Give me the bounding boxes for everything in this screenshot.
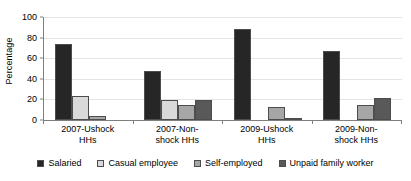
bar-self-employed[interactable] <box>268 107 285 120</box>
bar-slot <box>195 17 212 120</box>
legend-item-label: Unpaid family worker <box>290 159 374 168</box>
legend-item[interactable]: Salaried <box>37 159 81 168</box>
bar-slot <box>72 17 89 120</box>
plot-area <box>43 17 402 121</box>
bar-salaried[interactable] <box>55 44 72 120</box>
y-axis-tick-label: 0 <box>32 116 37 125</box>
legend-item[interactable]: Casual employee <box>97 159 178 168</box>
x-axis-category-label: 2009-Ushock HHs <box>222 124 312 152</box>
y-axis-tick-labels: 100806040200 <box>14 13 40 121</box>
x-axis-category-label: 2009-Non- shock HHs <box>312 124 402 152</box>
legend-swatch-icon <box>194 160 201 167</box>
bar-slot <box>268 17 285 120</box>
legend-swatch-icon <box>97 160 104 167</box>
bar-group <box>134 17 224 120</box>
x-axis-tick-mark <box>401 120 402 124</box>
bar-slot <box>234 17 251 120</box>
bar-salaried[interactable] <box>234 29 251 120</box>
bar-slot <box>55 17 72 120</box>
y-axis-tick-label: 40 <box>27 74 37 83</box>
bar-self-employed[interactable] <box>178 105 195 120</box>
bar-slot <box>323 17 340 120</box>
bar-salaried[interactable] <box>144 71 161 120</box>
legend-swatch-icon <box>279 160 286 167</box>
bar-salaried[interactable] <box>323 51 340 120</box>
x-axis-category-label: 2007-Non- shock HHs <box>133 124 223 152</box>
bar-slot <box>144 17 161 120</box>
bar-slot <box>106 17 123 120</box>
x-axis-category-label: 2007-Ushock HHs <box>43 124 133 152</box>
legend-item[interactable]: Unpaid family worker <box>279 159 374 168</box>
bar-unpaid-family-worker[interactable] <box>195 100 212 120</box>
legend-item-label: Casual employee <box>108 159 178 168</box>
legend-item[interactable]: Self-employed <box>194 159 263 168</box>
bar-slot <box>340 17 357 120</box>
bar-group <box>44 17 134 120</box>
y-axis-title-text: Percentage <box>4 37 14 84</box>
y-axis-tick-label: 80 <box>27 33 37 42</box>
bar-slot <box>251 17 268 120</box>
bar-chart-figure: Percentage 100806040200 2007-Ushock HHs2… <box>0 0 411 181</box>
bar-slot <box>161 17 178 120</box>
y-axis-tick-label: 60 <box>27 54 37 63</box>
chart-legend: SalariedCasual employeeSelf-employedUnpa… <box>0 155 411 171</box>
bar-slot <box>357 17 374 120</box>
bar-casual-employee[interactable] <box>161 100 178 120</box>
bar-slot <box>285 17 302 120</box>
bar-slot <box>89 17 106 120</box>
bar-slot <box>178 17 195 120</box>
legend-swatch-icon <box>37 160 44 167</box>
legend-item-label: Salaried <box>48 159 81 168</box>
bar-casual-employee[interactable] <box>72 96 89 120</box>
bar-group <box>223 17 313 120</box>
bar-groups <box>44 17 402 120</box>
y-axis-tick-label: 100 <box>22 13 37 22</box>
bar-slot <box>374 17 391 120</box>
y-axis-tick-label: 20 <box>27 95 37 104</box>
legend-item-label: Self-employed <box>205 159 263 168</box>
bar-group <box>313 17 403 120</box>
x-axis-category-labels: 2007-Ushock HHs2007-Non- shock HHs2009-U… <box>43 124 401 152</box>
bar-self-employed[interactable] <box>357 105 374 120</box>
bar-unpaid-family-worker[interactable] <box>374 98 391 120</box>
